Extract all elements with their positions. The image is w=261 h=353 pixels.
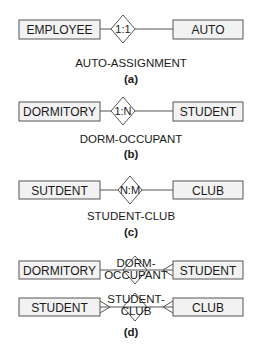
panel-caption: (d): [124, 326, 139, 338]
panel-caption: (b): [124, 148, 139, 160]
entity-label: DORMITORY: [23, 105, 96, 119]
relationship-diamond: N:M: [118, 176, 142, 204]
entity-student: STUDENT: [173, 261, 243, 279]
crows-foot-icon: [100, 307, 110, 313]
entity-label: CLUB: [192, 301, 224, 315]
entity-label: DORMITORY: [23, 264, 96, 278]
cardinality-label: N:M: [120, 184, 140, 196]
panel-a: EMPLOYEE 1:1 AUTO AUTO-ASSIGNMENT (a): [19, 15, 243, 85]
entity-dormitory: DORMITORY: [19, 102, 100, 121]
entity-label: SUTDENT: [31, 184, 88, 198]
relationship-name: STUDENT-CLUB: [87, 210, 176, 222]
entity-employee: EMPLOYEE: [19, 20, 100, 39]
crows-foot-icon: [163, 307, 173, 313]
entity-club: CLUB: [173, 181, 243, 199]
entity-label: STUDENT: [31, 301, 88, 315]
relationship-name: AUTO-ASSIGNMENT: [75, 57, 187, 69]
relationship-name-line2: CLUB: [121, 305, 152, 317]
entity-auto: AUTO: [173, 20, 243, 39]
panel-b: DORMITORY 1:N STUDENT DORM-OCCUPANT (b): [19, 97, 243, 160]
cardinality-label: 1:1: [115, 23, 130, 35]
er-diagram: EMPLOYEE 1:1 AUTO AUTO-ASSIGNMENT (a) DO…: [0, 0, 261, 353]
panel-caption: (c): [124, 226, 138, 238]
entity-sutdent: SUTDENT: [19, 181, 100, 199]
entity-label: STUDENT: [180, 264, 237, 278]
relationship-name-line1: STUDENT-: [107, 293, 165, 305]
panel-d: DORMITORY DORM- OCCUPANT STUDENT STUDENT: [19, 256, 243, 338]
entity-student: STUDENT: [173, 102, 243, 121]
relationship-diamond: 1:1: [111, 15, 135, 43]
entity-label: EMPLOYEE: [26, 23, 92, 37]
panel-c: SUTDENT N:M CLUB STUDENT-CLUB (c): [19, 176, 243, 238]
cardinality-label: 1:N: [114, 105, 131, 117]
entity-club: CLUB: [173, 298, 243, 316]
entity-label: STUDENT: [180, 105, 237, 119]
panel-caption: (a): [124, 73, 138, 85]
crows-foot-row-2: STUDENT STUDENT- CLUB CLUB: [19, 293, 243, 321]
relationship-name-line2: OCCUPANT: [104, 269, 168, 281]
relationship-name: DORM-OCCUPANT: [80, 133, 183, 145]
relationship-diamond: 1:N: [111, 97, 135, 125]
entity-dormitory: DORMITORY: [19, 261, 100, 279]
relationship-name-line1: DORM-: [117, 257, 156, 269]
crows-foot-row-1: DORMITORY DORM- OCCUPANT STUDENT: [19, 256, 243, 284]
entity-label: AUTO: [191, 23, 224, 37]
entity-label: CLUB: [192, 184, 224, 198]
entity-student: STUDENT: [19, 298, 100, 316]
